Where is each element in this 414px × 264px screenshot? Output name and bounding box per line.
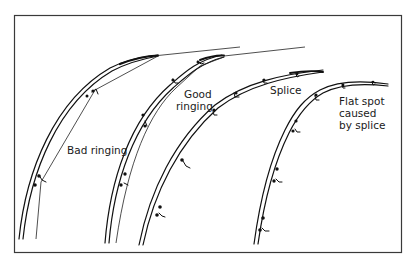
- label-splice: Splice: [270, 84, 301, 97]
- label-good-ringing-line2: ringing: [176, 100, 213, 113]
- diagram-frame: [15, 16, 402, 253]
- label-flat-spot-line2: caused: [339, 107, 376, 120]
- label-bad-ringing: Bad ringing: [67, 144, 127, 157]
- rod-ringing-diagram: [0, 0, 414, 264]
- label-flat-spot-line1: Flat spot: [339, 95, 385, 108]
- good-ringing-rod: [105, 47, 305, 243]
- line-path-icon: [158, 47, 240, 56]
- bad-ringing-rod: [19, 47, 240, 239]
- label-flat-spot-line3: by splice: [339, 119, 385, 132]
- label-good-ringing-line1: Good: [184, 88, 212, 101]
